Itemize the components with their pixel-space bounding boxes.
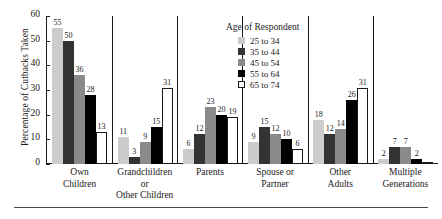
bar[interactable]: [162, 88, 173, 164]
y-tick-label: 60: [14, 9, 40, 19]
legend-item[interactable]: 35 to 44: [222, 46, 362, 57]
bar-value-label: 23: [206, 97, 214, 106]
legend-item-label: 65 to 74: [250, 80, 280, 90]
bar[interactable]: [357, 88, 368, 164]
bar-value-label: 2: [382, 149, 386, 158]
bar-slot: 36: [74, 16, 85, 164]
bar-slot: 15: [151, 16, 162, 164]
bar[interactable]: [96, 132, 107, 164]
bar-slot: 12: [194, 16, 205, 164]
bar[interactable]: [140, 142, 151, 164]
bar-slot: 55: [52, 16, 63, 164]
bar-slot: [422, 16, 433, 164]
legend-title: Age of Respondent: [222, 22, 362, 32]
x-tick-label-line: Spouse or: [243, 167, 306, 179]
legend: Age of Respondent 25 to 3435 to 4445 to …: [222, 22, 362, 90]
bar-value-label: 9: [143, 132, 147, 141]
bar[interactable]: [400, 147, 411, 164]
bar[interactable]: [259, 127, 270, 164]
legend-swatch-icon: [238, 37, 245, 44]
legend-item[interactable]: 55 to 64: [222, 68, 362, 79]
x-tick-label-line: Other: [309, 167, 372, 179]
x-tick-label: OtherAdults: [308, 167, 373, 202]
bar-value-label: 55: [54, 18, 62, 27]
bar-slot: 2: [378, 16, 389, 164]
bar-slot: 7: [400, 16, 411, 164]
bar-value-label: 36: [76, 65, 84, 74]
bar-value-label: 13: [98, 122, 106, 131]
x-tick-label-line: Generations: [374, 179, 437, 191]
bar-value-label: 6: [296, 139, 300, 148]
bar[interactable]: [378, 159, 389, 164]
bar[interactable]: [270, 134, 281, 164]
y-tick-label: 40: [14, 58, 40, 68]
bar-group: 11391531: [112, 16, 177, 164]
bar[interactable]: [346, 100, 357, 164]
bar-value-label: 20: [217, 105, 225, 114]
x-tick-label-line: Parents: [178, 167, 241, 179]
legend-item-label: 55 to 64: [250, 69, 280, 79]
bar[interactable]: [292, 149, 303, 164]
y-tick-label: 30: [14, 83, 40, 93]
bar[interactable]: [422, 162, 433, 164]
bar-slot: 3: [129, 16, 140, 164]
bar-slot: 28: [85, 16, 96, 164]
bar[interactable]: [129, 157, 140, 164]
x-tick-label: MultipleGenerations: [373, 167, 438, 202]
legend-item[interactable]: 65 to 74: [222, 79, 362, 90]
x-tick-label-line: Adults: [309, 179, 372, 191]
bar[interactable]: [324, 134, 335, 164]
bar[interactable]: [183, 149, 194, 164]
bar[interactable]: [194, 134, 205, 164]
bar-group: 5550362813: [47, 16, 112, 164]
bar[interactable]: [227, 117, 238, 164]
bar-value-label: 19: [228, 107, 236, 116]
bar[interactable]: [151, 127, 162, 164]
legend-item[interactable]: 45 to 54: [222, 57, 362, 68]
legend-swatch-icon: [238, 59, 245, 66]
bar-value-label: 10: [283, 129, 291, 138]
grouped-bar-chart-figure: Percentage of Cutbacks Taken 01020304050…: [0, 0, 442, 219]
legend-item-label: 35 to 44: [250, 47, 280, 57]
x-tick-label: OwnChildren: [47, 167, 112, 202]
x-tick-label-line: Other Children: [113, 190, 176, 202]
bar[interactable]: [248, 142, 259, 164]
bar-value-label: 28: [87, 85, 95, 94]
bar[interactable]: [411, 159, 422, 164]
footer-divider: [14, 207, 428, 208]
bar[interactable]: [389, 147, 400, 164]
bar-slot: 6: [183, 16, 194, 164]
legend-item[interactable]: 25 to 34: [222, 35, 362, 46]
bar[interactable]: [205, 107, 216, 164]
bar-slot: 31: [162, 16, 173, 164]
y-tick-mark: [46, 164, 50, 165]
x-tick-label: Parents: [177, 167, 242, 202]
bar[interactable]: [216, 115, 227, 164]
y-tick-label: 10: [14, 132, 40, 142]
bar-slot: 7: [389, 16, 400, 164]
bar[interactable]: [63, 41, 74, 164]
y-tick-label: 20: [14, 108, 40, 118]
bar[interactable]: [281, 139, 292, 164]
bar-value-label: 12: [326, 124, 334, 133]
legend-item-label: 45 to 54: [250, 58, 280, 68]
y-tick-label: 0: [14, 157, 40, 167]
bar[interactable]: [313, 120, 324, 164]
bar-value-label: 18: [315, 110, 323, 119]
bar[interactable]: [335, 129, 346, 164]
bar-value-label: 12: [272, 124, 280, 133]
y-tick-label: 50: [14, 34, 40, 44]
bar[interactable]: [118, 137, 129, 164]
x-tick-label-line: Partner: [243, 179, 306, 191]
bar[interactable]: [52, 28, 63, 164]
bar-value-label: 50: [65, 31, 73, 40]
x-tick-label-line: Multiple: [374, 167, 437, 179]
bar-value-label: 26: [348, 90, 356, 99]
legend-item-label: 25 to 34: [250, 36, 280, 46]
bar-value-label: 9: [252, 132, 256, 141]
bar-value-label: 7: [404, 137, 408, 146]
bar-value-label: 12: [195, 124, 203, 133]
bar[interactable]: [74, 75, 85, 164]
bar[interactable]: [85, 95, 96, 164]
bar-value-label: 6: [186, 139, 190, 148]
